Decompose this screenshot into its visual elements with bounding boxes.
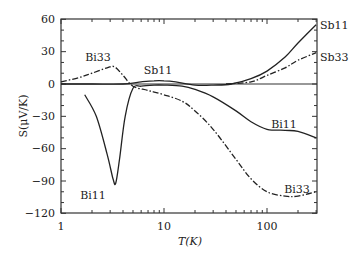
- label-bi11-right: Bi11: [271, 118, 297, 131]
- label-bi33-peak: Bi33: [85, 51, 111, 64]
- ytick-m30: −30: [32, 110, 55, 123]
- x-axis-title: T(K): [178, 235, 202, 248]
- ytick-0: 0: [48, 78, 55, 91]
- ytick-m90: −90: [32, 175, 55, 188]
- y-axis-title: S(μV/K): [17, 94, 30, 137]
- xtick-1: 1: [58, 220, 65, 233]
- chart-container: 60 30 0 −30 −60 −90 −120 1 10 100 T(K) S…: [0, 0, 359, 255]
- xtick-100: 100: [257, 220, 278, 233]
- axis-ticks: [61, 19, 317, 213]
- curve-bi33: [61, 66, 316, 196]
- ytick-30: 30: [41, 45, 55, 58]
- label-sb11-right: Sb11: [320, 19, 349, 32]
- plot-frame: [61, 19, 317, 213]
- seebeck-chart: 60 30 0 −30 −60 −90 −120 1 10 100 T(K) S…: [0, 0, 359, 255]
- label-sb11-mid: Sb11: [144, 64, 173, 77]
- ytick-60: 60: [41, 13, 55, 26]
- label-bi11-dip: Bi11: [80, 189, 106, 202]
- xtick-10: 10: [157, 220, 171, 233]
- ytick-m120: −120: [25, 207, 55, 220]
- label-sb33-right: Sb33: [320, 51, 349, 64]
- ytick-m60: −60: [32, 142, 55, 155]
- label-bi33-right: Bi33: [284, 183, 310, 196]
- curve-bi11: [85, 85, 316, 185]
